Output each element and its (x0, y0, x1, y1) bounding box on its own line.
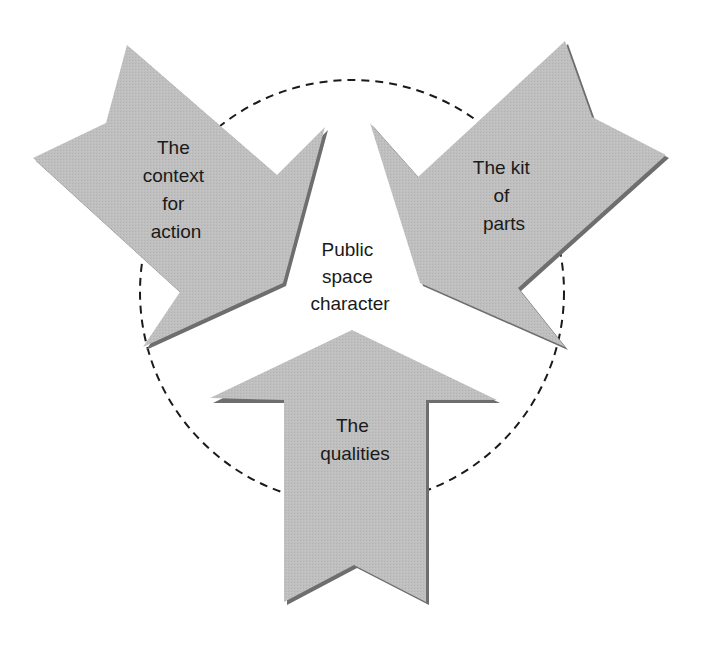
center-label-public-space-character: Public space character (310, 239, 390, 314)
arrow-shape (370, 41, 666, 347)
arrow-kit-of-parts: The kit of parts (370, 41, 669, 350)
arrow-qualities: The qualities (210, 330, 500, 605)
arrow-shape (210, 330, 497, 602)
public-space-diagram: The context for action The kit of parts … (0, 0, 704, 646)
